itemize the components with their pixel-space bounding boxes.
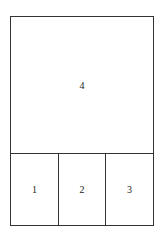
- panel-label: 2: [80, 184, 85, 195]
- panel-bottom-middle: 2: [59, 154, 106, 225]
- panel-bottom-right: 3: [106, 154, 153, 225]
- panel-label: 3: [127, 184, 132, 195]
- panel-bottom-left: 1: [11, 154, 59, 225]
- panel-label: 1: [32, 184, 37, 195]
- panel-top: 4: [11, 17, 153, 154]
- layout-frame: 4 1 2 3: [10, 16, 154, 226]
- panel-label: 4: [80, 80, 85, 91]
